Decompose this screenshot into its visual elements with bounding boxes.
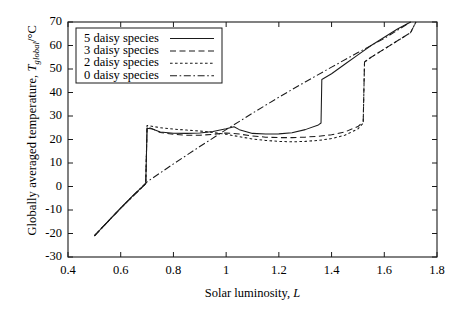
y-tick-label: 20 [32,132,62,147]
y-tick-label: -10 [32,202,62,217]
x-tick-label: 1.2 [259,263,299,278]
x-tick-label: 1.8 [417,263,457,278]
x-tick-label: 0.4 [48,263,88,278]
y-tick-label: 10 [32,155,62,170]
y-tick-label: 30 [32,108,62,123]
y-tick-label: 70 [32,14,62,29]
y-tick-label: -30 [32,249,62,264]
legend-label-3: 0 daisy species [84,68,159,83]
y-tick-label: -20 [32,226,62,241]
x-tick-label: 1 [206,263,246,278]
y-tick-label: 60 [32,38,62,53]
x-tick-label: 0.8 [153,263,193,278]
x-tick-label: 0.6 [101,263,141,278]
x-tick-label: 1.4 [312,263,352,278]
x-axis-label: Solar luminosity, L [68,286,437,301]
x-tick-label: 1.6 [364,263,404,278]
y-tick-label: 0 [32,179,62,194]
y-tick-label: 50 [32,61,62,76]
y-tick-label: 40 [32,85,62,100]
